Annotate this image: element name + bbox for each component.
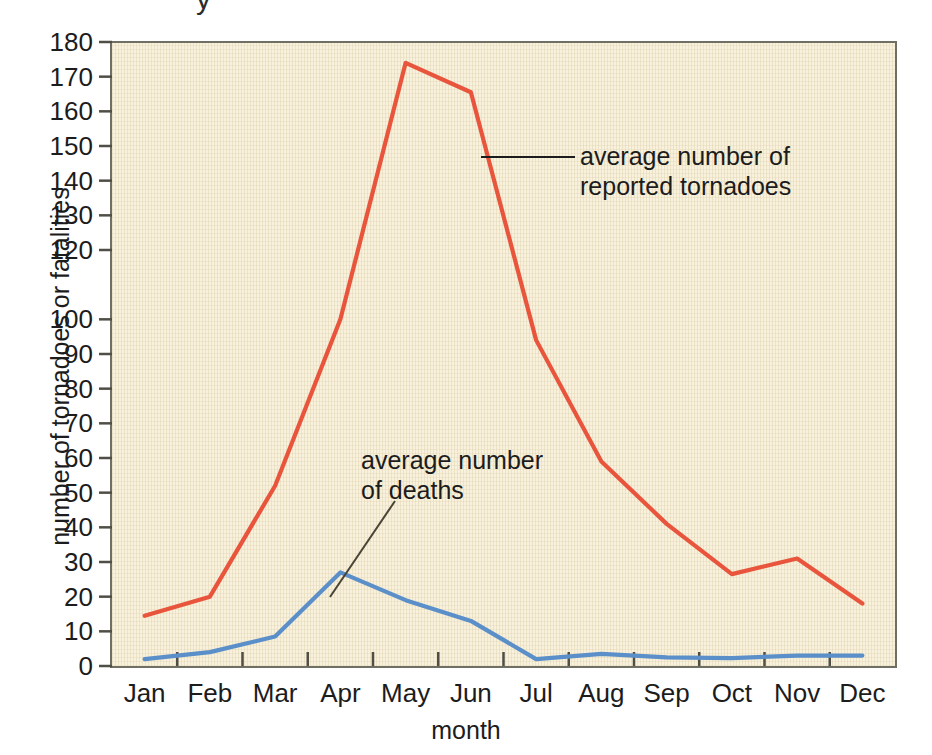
y-tick-label: 170	[7, 64, 93, 90]
y-axis-ticks	[99, 42, 112, 666]
series-annotation-tornadoes: average number of reported tornadoes	[580, 142, 791, 201]
x-tick-label: Dec	[817, 680, 907, 706]
y-tick-label: 150	[7, 133, 93, 159]
y-tick-label: 180	[7, 29, 93, 55]
series-annotation-deaths: average number of deaths	[361, 446, 543, 505]
series-line-deaths	[145, 572, 863, 659]
y-tick-label: 0	[7, 653, 93, 679]
chart-svg	[0, 0, 932, 755]
y-tick-label: 20	[7, 584, 93, 610]
y-tick-label: 10	[7, 618, 93, 644]
y-axis-title: number of tornadoes or fatalities	[46, 157, 75, 577]
x-axis-title: month	[0, 716, 932, 745]
y-tick-label: 160	[7, 98, 93, 124]
tornado-chart-figure: y 01020304050607080901001201301401501601…	[0, 0, 932, 755]
